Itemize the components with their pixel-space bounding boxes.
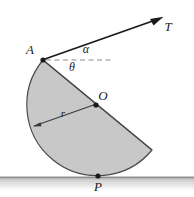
point-marker-a	[40, 57, 45, 62]
point-marker-o	[93, 102, 98, 107]
label-point-a: A	[25, 42, 34, 57]
mechanics-figure: A O P α θ T r	[0, 0, 194, 197]
label-point-o: O	[98, 88, 108, 103]
label-angle-theta: θ	[69, 60, 75, 74]
label-force-t: T	[164, 19, 172, 34]
label-point-p: P	[93, 179, 102, 194]
point-marker-p	[95, 173, 100, 178]
label-radius-r: r	[61, 107, 66, 119]
label-angle-alpha: α	[83, 42, 90, 56]
figure-container: A O P α θ T r	[0, 0, 194, 197]
